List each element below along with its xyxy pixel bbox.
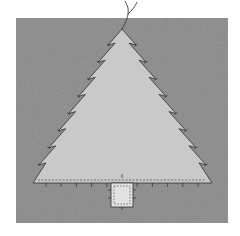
christmas-tree-pattern-illustration [0, 0, 240, 236]
hanging-thread-tail [128, 2, 137, 14]
